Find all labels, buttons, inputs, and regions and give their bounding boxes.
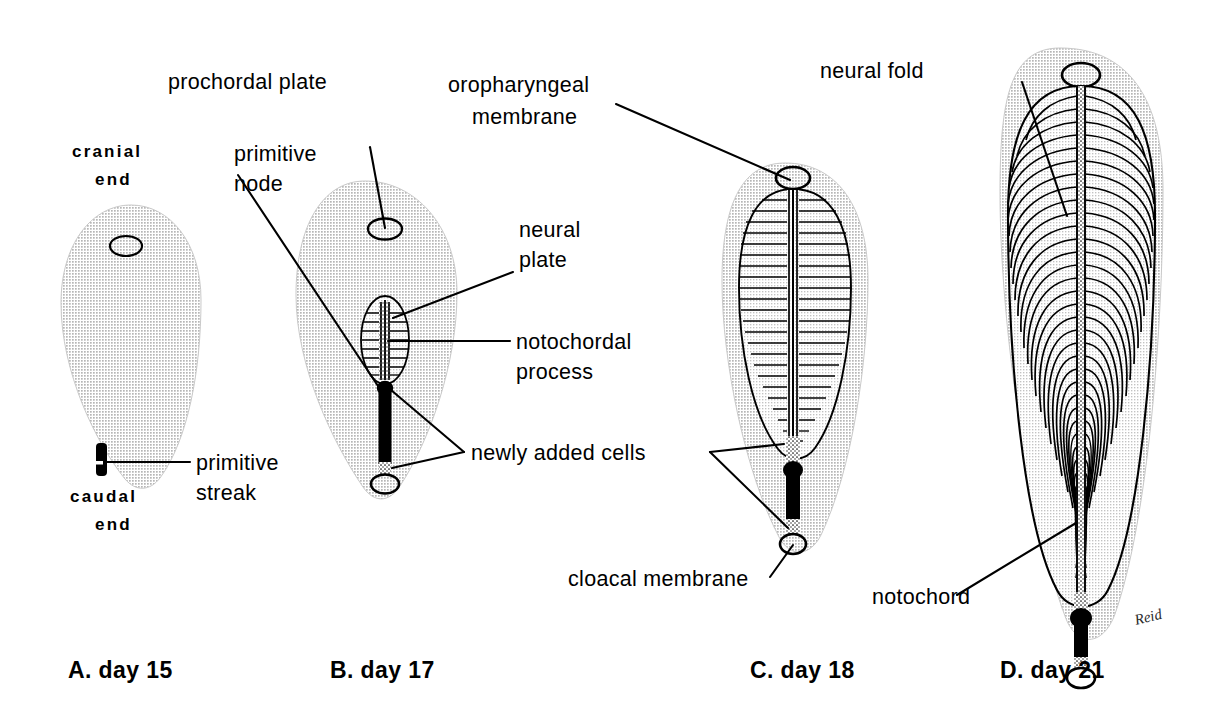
label-neural-fold: neural fold xyxy=(820,59,924,83)
caption-panel-b: B. day 17 xyxy=(330,657,435,683)
label-neural-plate-line2: plate xyxy=(519,248,567,272)
figure-canvas: cranial end caudal end primitive streak xyxy=(0,0,1223,708)
label-cloacal-membrane: cloacal membrane xyxy=(568,567,748,591)
label-caudal-end-line2: end xyxy=(95,515,132,534)
panel-c-notochordal-process xyxy=(787,190,799,442)
panel-d-notochord xyxy=(1076,86,1086,598)
panel-a-primitive-streak xyxy=(96,443,107,476)
label-notochordal-process-line2: process xyxy=(516,360,593,384)
label-notochordal-process-line1: notochordal xyxy=(516,330,632,354)
label-caudal-end-line1: caudal xyxy=(70,487,137,506)
caption-panel-c: C. day 18 xyxy=(750,657,855,683)
panel-c-newly-added-cells-upper xyxy=(786,436,800,464)
caption-panel-d: D. day 21 xyxy=(1000,657,1105,683)
panel-d-primitive-streak xyxy=(1074,618,1088,661)
label-neural-plate-line1: neural xyxy=(519,218,581,242)
label-oropharyngeal-membrane-line1: oropharyngeal xyxy=(448,73,589,97)
panel-b-primitive-streak xyxy=(379,390,392,464)
label-cranial-end-line1: cranial xyxy=(72,142,142,161)
embryo-development-figure: cranial end caudal end primitive streak xyxy=(0,0,1223,708)
panel-c-primitive-streak xyxy=(786,470,800,522)
label-primitive-node-line1: primitive xyxy=(234,142,317,166)
label-primitive-streak-line1: primitive xyxy=(196,451,279,475)
label-primitive-streak-line2: streak xyxy=(196,481,256,505)
label-oropharyngeal-membrane-line2: membrane xyxy=(472,105,577,129)
label-cranial-end-line2: end xyxy=(95,170,132,189)
caption-panel-a: A. day 15 xyxy=(68,657,173,683)
label-notochord: notochord xyxy=(872,585,970,609)
label-newly-added-cells: newly added cells xyxy=(471,441,646,465)
label-prochordal-plate: prochordal plate xyxy=(168,70,327,94)
panel-a-primitive-streak-notch xyxy=(96,461,103,465)
panel-b-newly-added-cells-lower xyxy=(379,462,391,474)
label-primitive-node-line2: node xyxy=(234,172,283,196)
